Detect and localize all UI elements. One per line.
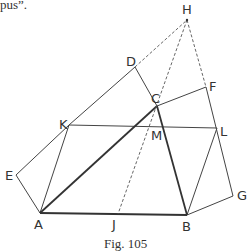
segment-CB [157,106,187,215]
segment-DH [135,20,187,67]
label-M: M [151,128,162,143]
label-H: H [182,2,192,17]
point-H-dot [186,19,188,21]
segment-KD [69,67,135,125]
segment-AE [16,175,40,213]
label-L: L [220,124,228,139]
dashed-segments [118,20,206,214]
geometry-figure: H D C F K M L E A J B G Fig. 105 [0,0,249,252]
segment-LB [187,128,217,215]
label-K: K [59,117,68,132]
label-D: D [126,54,136,69]
segment-CF [157,87,206,106]
segment-AB [40,213,187,215]
label-G: G [237,188,247,203]
segment-GB [187,196,233,215]
label-A: A [34,217,43,232]
label-B: B [182,219,191,234]
solid-segments [16,67,233,215]
label-E: E [5,168,13,183]
segment-HJ [118,20,187,214]
segment-KL [69,125,217,128]
label-J: J [111,217,116,232]
segment-FG [206,87,233,196]
label-C: C [151,91,160,106]
figure-caption: Fig. 105 [104,236,147,251]
label-F: F [209,79,216,94]
segment-HF [187,20,206,87]
